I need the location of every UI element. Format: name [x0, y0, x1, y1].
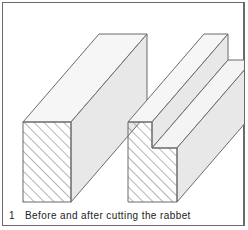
figure-caption: 1Before and after cutting the rabbet — [9, 210, 191, 221]
rabbet-illustration — [0, 0, 248, 230]
figure-number: 1 — [9, 210, 25, 221]
caption-text: Before and after cutting the rabbet — [25, 210, 191, 221]
